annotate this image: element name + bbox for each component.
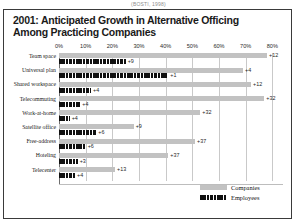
- chart-row: Telecenter+13+4: [59, 167, 283, 181]
- x-tick-60%: 60%: [213, 43, 224, 49]
- bar-companies: [59, 53, 267, 58]
- bar-companies: [59, 82, 251, 87]
- x-tick-10%: 10%: [80, 43, 91, 49]
- bar-employees: [59, 130, 96, 135]
- bar-value-employees: +4: [91, 87, 99, 93]
- category-label: Shared workspace: [0, 81, 59, 87]
- legend-swatch-employees: [200, 195, 227, 200]
- category-label: Telecenter: [0, 167, 59, 173]
- bar-employees: [59, 173, 75, 178]
- source-note: (BOSTI, 1998): [0, 0, 297, 9]
- x-tick-50%: 50%: [187, 43, 198, 49]
- bar-employees: [59, 159, 78, 164]
- bar-companies: [59, 167, 115, 172]
- category-label: Work-at-home: [0, 110, 59, 116]
- x-tick-80%: 80%: [267, 43, 278, 49]
- category-label: Team space: [0, 53, 59, 59]
- x-tick-20%: 20%: [107, 43, 118, 49]
- bar-value-companies: +32: [200, 109, 211, 115]
- chart-row: Universal plan+4+1: [59, 67, 283, 81]
- x-axis-tick-labels: 0%10%20%30%40%50%60%70%80%: [59, 43, 294, 53]
- legend-item-employees: Employees: [200, 192, 292, 202]
- bar-value-employees: +6: [86, 143, 94, 149]
- bar-companies: [59, 110, 200, 115]
- bar-value-employees: +4: [80, 101, 88, 107]
- chart-row: Free-address+37+6: [59, 138, 283, 152]
- chart-row: Telecommuting+32+4: [59, 96, 283, 110]
- x-tick-40%: 40%: [160, 43, 171, 49]
- x-tick-0%: 0%: [55, 43, 63, 49]
- chart-row: Satellite office+9+6: [59, 124, 283, 138]
- bar-value-companies: +32: [264, 95, 275, 101]
- legend-label-companies: Companies: [231, 184, 260, 191]
- bar-value-companies: +13: [115, 166, 126, 172]
- bar-value-employees: +1: [168, 72, 176, 78]
- bar-companies: [59, 68, 243, 73]
- bar-value-companies: +9: [134, 123, 142, 129]
- legend-label-employees: Employees: [231, 194, 259, 201]
- bar-employees: [59, 116, 70, 121]
- bar-companies: [59, 139, 195, 144]
- bar-employees: [59, 144, 86, 149]
- bar-employees: [59, 102, 80, 107]
- bar-value-employees: +4: [70, 115, 78, 121]
- category-label: Telecommuting: [0, 96, 59, 102]
- bar-value-companies: +37: [195, 138, 206, 144]
- bar-value-employees: +6: [96, 129, 104, 135]
- chart-row: Shared workspace+12+4: [59, 81, 283, 95]
- page-title: 2001: Anticipated Growth in Alternative …: [13, 14, 263, 38]
- chart-frame: 2001: Anticipated Growth in Alternative …: [3, 9, 292, 219]
- bar-value-companies: +37: [168, 152, 179, 158]
- legend: Companies Employees: [200, 182, 292, 202]
- category-label: Hoteling: [0, 152, 59, 158]
- bar-value-companies: +4: [243, 67, 251, 73]
- chart-row: Hoteling+37+3: [59, 152, 283, 166]
- category-label: Universal plan: [0, 67, 59, 73]
- x-tick-70%: 70%: [240, 43, 251, 49]
- chart-row: Work-at-home+32+4: [59, 110, 283, 124]
- x-tick-30%: 30%: [133, 43, 144, 49]
- bar-employees: [59, 59, 126, 64]
- bar-companies: [59, 153, 168, 158]
- category-label: Free-address: [0, 138, 59, 144]
- bar-companies: [59, 96, 264, 101]
- bar-value-companies: +12: [251, 81, 262, 87]
- category-label: Satellite office: [0, 124, 59, 130]
- bar-value-employees: +3: [78, 158, 86, 164]
- chart-row: Team space+12+9: [59, 53, 283, 67]
- legend-item-companies: Companies: [200, 182, 292, 192]
- chart-page: (BOSTI, 1998) 2001: Anticipated Growth i…: [0, 0, 297, 224]
- bar-value-companies: +12: [267, 52, 278, 58]
- plot-area: Team space+12+9Universal plan+4+1Shared …: [59, 53, 283, 181]
- bar-value-employees: +9: [126, 58, 134, 64]
- bar-employees: [59, 73, 168, 78]
- bar-value-employees: +4: [75, 172, 83, 178]
- legend-swatch-companies: [200, 185, 227, 190]
- bar-employees: [59, 88, 91, 93]
